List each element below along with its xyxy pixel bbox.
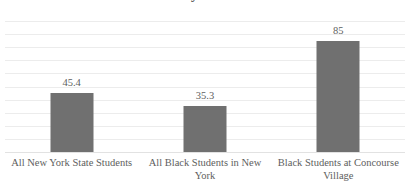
category-axis: All New York State StudentsAll Black Stu…	[5, 156, 405, 196]
bar-value-label: 85	[333, 26, 344, 37]
bar-group: 45.4	[5, 21, 138, 152]
bar[interactable]	[50, 93, 93, 152]
bars-layer: 45.435.385	[5, 21, 405, 152]
category-label: Black Students at Concourse Village	[272, 156, 405, 182]
category-label: All Black Students in New York	[138, 156, 271, 182]
category-label: All New York State Students	[5, 156, 138, 169]
bar-value-label: 35.3	[196, 91, 214, 102]
plot-area: 45.435.385	[5, 21, 405, 152]
bar-group: 85	[272, 21, 405, 152]
chart-title: Math Proficiency Rates in 2023-2024	[0, 0, 409, 3]
bar-value-label: 45.4	[62, 78, 80, 89]
bar-chart: Math Proficiency Rates in 2023-2024 45.4…	[0, 0, 409, 196]
bar[interactable]	[183, 106, 226, 152]
bar-group: 35.3	[138, 21, 271, 152]
axis-baseline	[5, 152, 405, 153]
bar[interactable]	[317, 41, 360, 152]
